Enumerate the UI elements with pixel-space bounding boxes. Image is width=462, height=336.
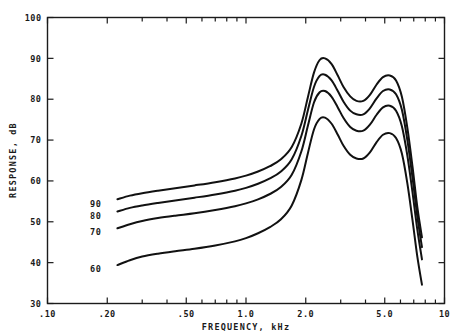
chart-figure: .10.20.501.02.05.010 10090807060504030 9… (0, 0, 462, 336)
y-tick-label: 30 (30, 299, 41, 309)
y-tick-label: 50 (30, 217, 41, 227)
data-curve (117, 117, 422, 285)
y-axis-tick-labels: 10090807060504030 (25, 13, 42, 309)
x-tick-label: 10 (439, 309, 450, 319)
x-tick-label: 1.0 (238, 309, 255, 319)
y-tick-label: 60 (30, 176, 41, 186)
y-tick-label: 80 (30, 94, 41, 104)
x-tick-label: 5.0 (376, 309, 393, 319)
data-curve (117, 58, 422, 237)
y-tick-label: 70 (30, 135, 41, 145)
x-tick-label: .50 (178, 309, 195, 319)
y-tick-label: 100 (25, 13, 42, 23)
curve-label: 60 (90, 264, 101, 274)
x-axis-tick-labels: .10.20.501.02.05.010 (39, 309, 450, 319)
x-tick-label: .20 (99, 309, 116, 319)
data-curves (117, 58, 422, 285)
curve-label: 80 (90, 211, 101, 221)
curve-label: 70 (90, 227, 101, 237)
x-tick-label: .10 (39, 309, 56, 319)
y-axis-ticks (48, 18, 445, 304)
plot-frame (48, 18, 445, 304)
y-tick-label: 40 (30, 258, 41, 268)
y-axis-title: RESPONSE, dB (8, 122, 18, 198)
plot-border (48, 18, 445, 304)
curve-labels: 90807060 (90, 199, 101, 274)
y-tick-label: 90 (30, 54, 41, 64)
x-axis-title: FREQUENCY, kHz (202, 322, 290, 332)
curve-label: 90 (90, 199, 101, 209)
x-tick-label: 2.0 (297, 309, 314, 319)
data-curve (117, 74, 422, 247)
data-curve (117, 91, 422, 260)
x-axis-ticks (48, 18, 445, 304)
response-frequency-chart: .10.20.501.02.05.010 10090807060504030 9… (0, 0, 462, 336)
